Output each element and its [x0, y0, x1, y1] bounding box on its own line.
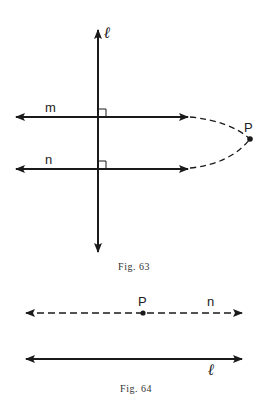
label-point-p: P — [138, 294, 147, 309]
dashed-curve-m-to-p — [190, 117, 250, 139]
figure-64: P n ℓ Fig. 64 — [26, 294, 242, 394]
label-point-p: P — [244, 120, 253, 135]
label-line-m: m — [45, 100, 56, 115]
figure-63: ℓ m n P Fig. 63 — [16, 23, 253, 272]
right-angle-mark-n — [98, 161, 106, 169]
caption-fig-63: Fig. 63 — [118, 261, 150, 272]
diagram-canvas: ℓ m n P Fig. 63 P n ℓ Fig. 64 — [0, 0, 269, 409]
label-line-l: ℓ — [103, 23, 111, 42]
label-line-n: n — [207, 294, 214, 309]
point-p — [140, 310, 145, 315]
label-line-l: ℓ — [207, 360, 215, 379]
dashed-curve-n-to-p — [190, 139, 250, 168]
right-angle-mark-m — [98, 109, 106, 117]
label-line-n: n — [45, 152, 52, 167]
caption-fig-64: Fig. 64 — [120, 383, 152, 394]
point-p — [247, 136, 253, 142]
